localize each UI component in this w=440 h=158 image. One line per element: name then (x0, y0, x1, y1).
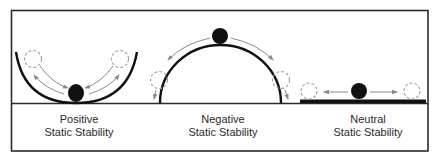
convex-dome-surface (160, 45, 281, 103)
label-neutral-line1: Neutral (303, 113, 433, 126)
ball-displaced-left-icon (301, 83, 317, 99)
ball-icon (351, 83, 367, 99)
label-positive-line2: Static Stability (14, 126, 144, 139)
arrow-roll-left (168, 38, 210, 60)
label-neutral: Neutral Static Stability (303, 113, 433, 139)
label-positive: Positive Static Stability (14, 113, 144, 139)
flat-surface (300, 100, 426, 104)
arrow-fall-left (154, 90, 156, 99)
ball-displaced-right-icon (404, 83, 420, 99)
panel-positive (16, 51, 137, 104)
ball-displaced-right-icon (112, 51, 129, 68)
label-neutral-line2: Static Stability (303, 126, 433, 139)
arrow-roll-right (231, 38, 273, 60)
label-positive-line1: Positive (14, 113, 144, 126)
panel-negative (151, 28, 290, 103)
panel-neutral (300, 83, 426, 103)
ball-icon (212, 28, 228, 44)
ball-displaced-left-icon (25, 51, 42, 68)
label-negative-line2: Static Stability (158, 126, 288, 139)
arrow-fall-right (285, 90, 288, 99)
label-negative: Negative Static Stability (158, 113, 288, 139)
label-negative-line1: Negative (158, 113, 288, 126)
ball-icon (68, 84, 84, 102)
